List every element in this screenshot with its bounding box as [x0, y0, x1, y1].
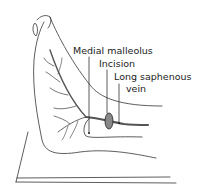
label-incision: Incision — [99, 58, 135, 69]
surface-edge-bottom — [16, 182, 176, 183]
label-long-saphenous-line2: vein — [126, 83, 146, 94]
vein-branch — [58, 58, 62, 74]
vein-branch-main — [50, 50, 86, 117]
vein-branch — [54, 106, 76, 109]
foot-diagram: Medial malleolus Incision Long saphenous… — [0, 0, 218, 187]
vein-branch — [50, 88, 68, 95]
leader-dot-long-saphenous — [118, 122, 120, 124]
surface-edge-back — [17, 177, 170, 178]
toe-nail — [33, 24, 38, 36]
surface-edge-left — [16, 132, 28, 182]
vein-branch — [44, 58, 54, 66]
leader-dot-medial-malleolus — [88, 132, 90, 134]
label-medial-malleolus: Medial malleolus — [73, 45, 153, 56]
incision-mark — [105, 113, 113, 129]
label-long-saphenous-line1: Long saphenous — [114, 71, 192, 82]
long-saphenous-vein — [86, 117, 148, 125]
vein-branch — [54, 116, 70, 124]
